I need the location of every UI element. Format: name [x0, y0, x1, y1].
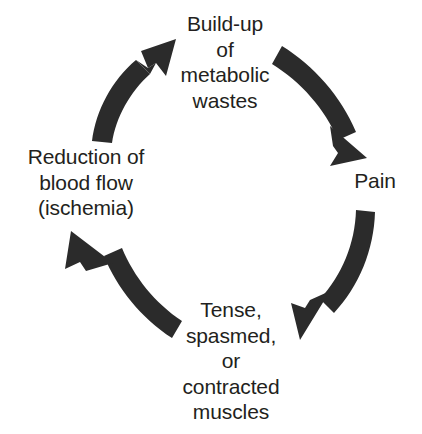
node-label-pain: Pain: [330, 168, 420, 194]
node-label-buildup: Build-up of metabolic wastes: [152, 11, 298, 113]
node-label-ischemia: Reduction of blood flow (ischemia): [8, 144, 164, 221]
cycle-diagram: Build-up of metabolic wastes Pain Tense,…: [0, 0, 422, 434]
node-label-muscles: Tense, spasmed, or contracted muscles: [158, 297, 304, 425]
